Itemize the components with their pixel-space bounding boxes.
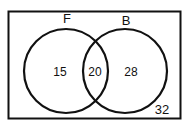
venn-diagram: F B 15 20 28 32 bbox=[0, 0, 184, 124]
f-only-count: 15 bbox=[53, 65, 67, 79]
b-only-count: 28 bbox=[124, 65, 138, 79]
set-f-label: F bbox=[63, 11, 71, 26]
universe-outside-count: 32 bbox=[155, 102, 169, 117]
intersection-count: 20 bbox=[88, 65, 102, 79]
set-b-label: B bbox=[122, 13, 131, 28]
